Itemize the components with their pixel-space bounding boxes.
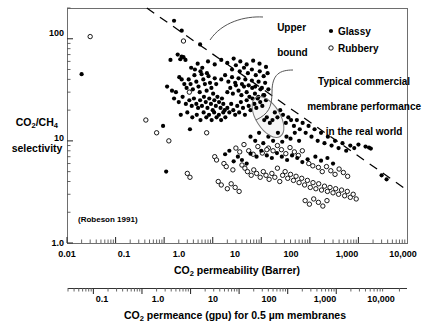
- annotation-typical-commercial: Typical commercial membrane performance …: [296, 63, 421, 151]
- annotation-upper-bound-line2: bound: [277, 47, 308, 58]
- source-citation: (Robeson 1991): [78, 215, 138, 224]
- x-axis-ticks: [67, 237, 405, 243]
- annotation-typical-commercial-line3: in the real world: [326, 126, 403, 137]
- annotation-typical-commercial-line2: membrane performance: [307, 101, 421, 112]
- y-tick-label-1: 1.0: [38, 238, 64, 248]
- y-tick-label-100: 100: [34, 28, 64, 38]
- secondary-x-tick-label-1: 1.0: [138, 294, 178, 304]
- secondary-x-tick-label-3: 100: [249, 294, 289, 304]
- x-tick-label-4: 100: [271, 249, 311, 259]
- x-tick-label-3: 10: [215, 249, 255, 259]
- annotation-typical-commercial-line1: Typical commercial: [318, 76, 410, 87]
- x-tick-label-5: 1,000: [327, 249, 367, 259]
- y-axis-title-line2: selectivity: [12, 142, 63, 154]
- x-tick-label-0: 0.01: [47, 249, 87, 259]
- secondary-x-tick-label-2: 10: [193, 294, 233, 304]
- x-tick-label-1: 0.1: [104, 249, 144, 259]
- secondary-x-axis-title: CO2 permeance (gpu) for 0.5 µm membranes: [60, 309, 410, 321]
- annotation-upper-bound-line1: Upper: [277, 22, 306, 33]
- x-axis-title: CO2 permeability (Barrer): [67, 264, 407, 276]
- x-tick-label-2: 1.0: [159, 249, 199, 259]
- legend-label-rubbery: Rubbery: [338, 43, 379, 54]
- y-axis-title-line1: CO2/CH4: [16, 116, 58, 128]
- secondary-x-tick-label-4: 1,000: [305, 294, 345, 304]
- legend-label-glassy: Glassy: [338, 26, 371, 37]
- secondary-x-tick-label-5: 10,000: [361, 294, 401, 304]
- legend-markers: [329, 29, 333, 50]
- y-axis-title: CO2/CH4 selectivity: [0, 104, 62, 166]
- x-tick-label-6: 10,000: [383, 249, 423, 259]
- secondary-x-tick-label-0: 0.1: [82, 294, 122, 304]
